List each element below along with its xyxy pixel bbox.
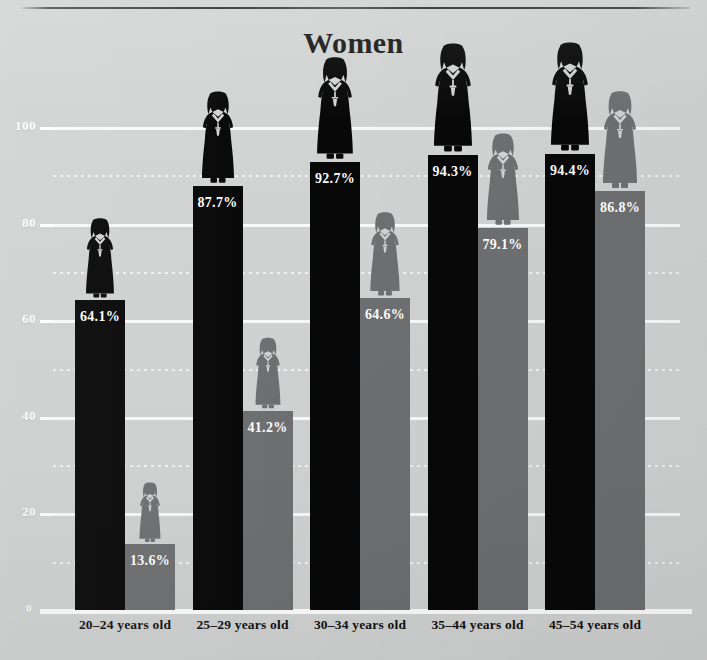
bar-value-label: 94.4% xyxy=(545,163,595,179)
bar-black-5[interactable]: 94.4% xyxy=(545,154,595,610)
bar-black-3[interactable]: 92.7% xyxy=(310,162,360,610)
ytick-label-100: 100 xyxy=(0,118,36,134)
bar-value-label: 13.6% xyxy=(125,553,175,569)
ytick-label-60: 60 xyxy=(0,311,36,327)
woman-pictogram-icon xyxy=(79,218,122,300)
bar-black-4[interactable]: 94.3% xyxy=(428,155,478,610)
chart-title: Women xyxy=(0,26,707,60)
woman-pictogram-icon xyxy=(193,91,242,186)
bar-value-label: 79.1% xyxy=(478,237,528,253)
ytick-label-0: 0 xyxy=(0,602,32,614)
bar-value-label: 64.6% xyxy=(360,307,410,323)
bar-gray-2[interactable]: 41.2% xyxy=(243,411,293,610)
bar-black-2[interactable]: 87.7% xyxy=(193,186,243,610)
ytick-label-20: 20 xyxy=(0,504,36,520)
ytick-dash-100 xyxy=(40,127,53,130)
bar-value-label: 94.3% xyxy=(428,164,478,180)
bar-value-label: 41.2% xyxy=(243,420,293,436)
ytick-label-40: 40 xyxy=(0,408,36,424)
bar-value-label: 64.1% xyxy=(75,309,125,325)
bar-gray-5[interactable]: 86.8% xyxy=(595,191,645,610)
woman-pictogram-icon xyxy=(363,212,408,298)
bar-black-1[interactable]: 64.1% xyxy=(75,300,125,610)
bar-gray-3[interactable]: 64.6% xyxy=(360,298,410,610)
bar-chart-plot-area: 10080604020064.1%13.6%20–24 years old87.… xyxy=(0,0,707,660)
bar-gray-4[interactable]: 79.1% xyxy=(478,228,528,610)
ytick-dash-20 xyxy=(40,513,53,516)
bar-value-label: 87.7% xyxy=(193,195,243,211)
bar-value-label: 86.8% xyxy=(595,200,645,216)
ytick-label-80: 80 xyxy=(0,215,36,231)
xtick-label-5: 45–54 years old xyxy=(520,617,670,633)
bar-value-label: 92.7% xyxy=(310,171,360,187)
bar-gray-1[interactable]: 13.6% xyxy=(125,544,175,610)
ytick-dash-80 xyxy=(40,224,53,227)
top-divider-rule xyxy=(22,7,690,9)
woman-pictogram-icon xyxy=(478,133,527,228)
woman-pictogram-icon xyxy=(308,57,363,162)
woman-pictogram-icon xyxy=(249,337,287,411)
ytick-dash-40 xyxy=(40,417,53,420)
woman-pictogram-icon xyxy=(134,482,166,544)
woman-pictogram-icon xyxy=(594,91,646,191)
ytick-dash-60 xyxy=(40,320,53,323)
